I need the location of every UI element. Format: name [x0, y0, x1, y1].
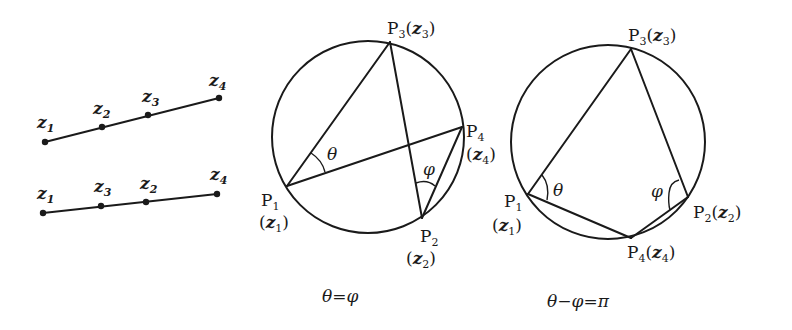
chord-p3-p2 — [631, 49, 688, 197]
chord-p1-p4 — [287, 127, 462, 186]
point-z1-bottom — [40, 210, 46, 216]
angle-theta-arc — [542, 175, 548, 200]
label-p1: P1 — [504, 191, 522, 214]
label-p4: P4 — [466, 121, 484, 144]
label-z3-top: z3 — [141, 86, 160, 109]
point-z4-bottom — [214, 191, 220, 197]
chord-p3-p2 — [390, 42, 422, 218]
theta-label: θ — [553, 180, 563, 200]
circle-right — [511, 45, 705, 239]
cross-ratio-diagram: z1 z2 z3 z4 z1 z3 z2 z4 θ φ P3(z3) P4 (z… — [0, 0, 792, 330]
caption-right: θ−φ=π — [547, 291, 610, 311]
label-p3: P3(z3) — [387, 18, 435, 41]
chord-p1-p3 — [287, 42, 390, 186]
point-z4-top — [216, 95, 222, 101]
label-p4: P4(z4) — [627, 242, 675, 265]
point-z3-bottom — [98, 203, 104, 209]
angle-phi-arc — [416, 182, 435, 186]
left-panel: z1 z2 z3 z4 z1 z3 z2 z4 — [36, 70, 227, 216]
middle-panel: θ φ P3(z3) P4 (z4) P1 (z1) P2 (z2) θ=φ — [259, 18, 496, 306]
line-top: z1 z2 z3 z4 — [36, 70, 226, 145]
label-z1: (z1) — [492, 215, 522, 238]
label-z1-top: z1 — [36, 112, 54, 135]
label-p2: P2(z2) — [693, 202, 741, 225]
phi-label: φ — [651, 181, 663, 201]
point-z2-bottom — [143, 199, 149, 205]
label-z2: (z2) — [406, 248, 436, 271]
theta-label: θ — [327, 144, 337, 164]
phi-label: φ — [423, 159, 435, 179]
segment-bottom — [43, 194, 217, 213]
label-z2-bottom: z2 — [139, 173, 158, 196]
label-p3: P3(z3) — [628, 25, 676, 48]
point-z2-top — [99, 124, 105, 130]
label-p2: P2 — [420, 226, 438, 249]
label-p1: P1 — [261, 190, 279, 213]
label-z4-top: z4 — [208, 70, 226, 93]
point-z1-top — [42, 139, 48, 145]
label-z4: (z4) — [466, 144, 496, 167]
label-z3-bottom: z3 — [93, 176, 112, 199]
label-z1: (z1) — [259, 212, 289, 235]
chord-p4-p2 — [631, 197, 688, 238]
chord-p1-p4 — [528, 194, 631, 238]
label-z4-bottom: z4 — [209, 164, 227, 187]
label-z1-bottom: z1 — [36, 183, 54, 206]
angle-theta-arc — [311, 153, 325, 172]
caption-middle: θ=φ — [322, 286, 358, 306]
point-z3-top — [145, 112, 151, 118]
right-panel: θ φ P3(z3) P1 (z1) P2(z2) P4(z4) θ−φ=π — [492, 25, 741, 311]
line-bottom: z1 z3 z2 z4 — [36, 164, 227, 216]
label-z2-top: z2 — [92, 98, 111, 121]
segment-top — [45, 98, 219, 142]
